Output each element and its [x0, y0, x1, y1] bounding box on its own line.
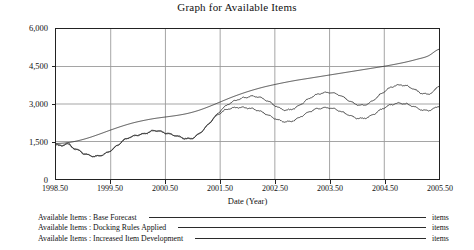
plot-frame: [55, 28, 440, 180]
x-axis-tick-label: 2005.50: [417, 184, 463, 193]
legend-label: Available Items : Docking Rules Applied: [38, 223, 166, 232]
x-axis-tick-mark: [330, 180, 331, 184]
legend-row: Available Items : Base Forecast items: [38, 212, 458, 223]
x-axis-tick-mark: [275, 180, 276, 184]
y-axis-tick-mark: [52, 66, 55, 67]
series-line: [56, 49, 439, 143]
x-axis-tick-mark: [165, 180, 166, 184]
x-axis-tick-label: 2000.50: [142, 184, 188, 193]
x-axis-tick-mark: [110, 180, 111, 184]
y-axis-tick-mark: [52, 142, 55, 143]
y-axis-tick-label: 4,500: [0, 61, 48, 71]
chart-legend: Available Items : Base Forecast items Av…: [38, 212, 458, 244]
x-axis-tick-label: 1998.50: [32, 184, 78, 193]
legend-unit: items: [432, 234, 458, 243]
legend-line-sample: [195, 238, 426, 239]
legend-label: Available Items : Increased Item Develop…: [38, 234, 183, 243]
y-axis-tick-mark: [52, 104, 55, 105]
x-axis-tick-mark: [385, 180, 386, 184]
chart-page: Graph for Available Items 01,5003,0004,5…: [0, 0, 474, 250]
chart-title: Graph for Available Items: [0, 1, 474, 13]
chart-canvas: [56, 29, 439, 179]
series-line: [56, 85, 439, 157]
x-axis-tick-label: 2003.50: [307, 184, 353, 193]
legend-label: Available Items : Base Forecast: [38, 213, 137, 222]
series-line: [56, 102, 439, 156]
legend-row: Available Items : Docking Rules Applied …: [38, 223, 458, 234]
y-axis-tick-label: 3,000: [0, 99, 48, 109]
legend-unit: items: [432, 213, 458, 222]
x-axis-tick-label: 2004.50: [362, 184, 408, 193]
x-axis-title: Date (Year): [55, 196, 440, 206]
x-axis-tick-label: 1999.50: [87, 184, 133, 193]
legend-unit: items: [432, 223, 458, 232]
legend-line-sample: [149, 217, 426, 218]
legend-line-sample: [178, 227, 426, 228]
legend-row: Available Items : Increased Item Develop…: [38, 233, 458, 244]
y-axis-tick-label: 1,500: [0, 137, 48, 147]
x-axis-tick-label: 2002.50: [252, 184, 298, 193]
y-axis-tick-label: 6,000: [0, 23, 48, 33]
x-axis-tick-label: 2001.50: [197, 184, 243, 193]
x-axis-tick-mark: [220, 180, 221, 184]
plot-area: [55, 28, 440, 180]
